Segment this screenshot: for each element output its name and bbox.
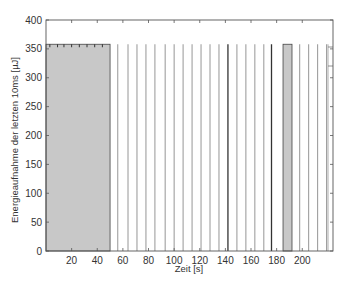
x-tick-label: 140 <box>217 255 234 266</box>
x-tick-label: 20 <box>66 255 78 266</box>
x-tick-label: 160 <box>243 255 260 266</box>
y-tick-label: 100 <box>25 188 42 199</box>
x-tick-label: 60 <box>117 255 129 266</box>
y-tick-label: 0 <box>36 246 42 257</box>
y-tick-label: 150 <box>25 159 42 170</box>
y-tick-label: 300 <box>25 72 42 83</box>
y-tick-label: 350 <box>25 43 42 54</box>
y-tick-label: 50 <box>31 217 43 228</box>
y-tick-label: 200 <box>25 130 42 141</box>
y-axis-label: Energieaufnahme der letzten 10ms [µJ] <box>9 57 20 223</box>
x-tick-label: 180 <box>268 255 285 266</box>
x-tick-label: 200 <box>294 255 311 266</box>
plot-area <box>46 44 333 251</box>
data-block <box>46 44 110 251</box>
x-axis-label: Zeit [s] <box>175 263 204 274</box>
x-tick-label: 80 <box>143 255 155 266</box>
y-tick-label: 250 <box>25 101 42 112</box>
y-tick-label: 400 <box>25 15 42 26</box>
x-tick-label: 40 <box>92 255 104 266</box>
data-block <box>283 44 292 251</box>
energy-chart: 0501001502002503003504002040608010012014… <box>0 0 350 290</box>
